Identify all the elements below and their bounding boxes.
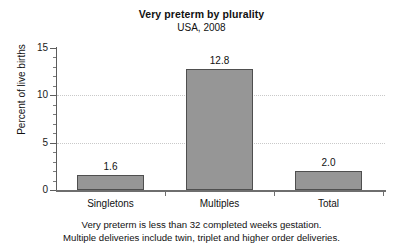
y-minor-tick-mark — [53, 133, 57, 134]
bar-value-label: 1.6 — [81, 161, 141, 172]
y-minor-tick-mark — [53, 114, 57, 115]
y-minor-tick-mark — [53, 57, 57, 58]
chart-subtitle: USA, 2008 — [0, 22, 403, 33]
y-minor-tick-mark — [53, 67, 57, 68]
y-minor-tick-mark — [53, 86, 57, 87]
y-tick-label-wrap: 10 — [0, 90, 48, 100]
y-axis-line — [56, 47, 57, 191]
y-tick-label: 5 — [6, 138, 48, 148]
chart-title: Very preterm by plurality — [0, 8, 403, 20]
bar-value-label: 12.8 — [190, 55, 250, 66]
y-minor-tick-mark — [53, 162, 57, 163]
x-category-label: Total — [284, 198, 374, 209]
y-tick-label-wrap: 5 — [0, 138, 48, 148]
bar — [77, 175, 145, 190]
x-tick-mark — [165, 191, 166, 196]
x-category-label: Multiples — [175, 198, 265, 209]
y-minor-tick-mark — [53, 76, 57, 77]
bar-value-label: 2.0 — [299, 157, 359, 168]
bar — [186, 69, 254, 190]
y-minor-tick-mark — [53, 152, 57, 153]
y-minor-tick-mark — [53, 105, 57, 106]
x-tick-mark — [274, 191, 275, 196]
y-tick-mark — [50, 48, 56, 49]
chart-figure: Very preterm by plurality USA, 2008 Perc… — [0, 0, 403, 250]
x-axis-line — [56, 190, 386, 192]
y-tick-label: 15 — [6, 43, 48, 53]
y-tick-mark — [50, 190, 56, 191]
x-category-label: Singletons — [66, 198, 156, 209]
y-minor-tick-mark — [53, 181, 57, 182]
y-tick-label-wrap: 0 — [0, 185, 48, 195]
footnote-line-1: Very preterm is less than 32 completed w… — [0, 219, 403, 232]
y-minor-tick-mark — [53, 124, 57, 125]
y-tick-label-wrap: 15 — [0, 43, 48, 53]
y-tick-label: 10 — [6, 90, 48, 100]
y-minor-tick-mark — [53, 171, 57, 172]
footnote-line-2: Multiple deliveries include twin, triple… — [0, 232, 403, 245]
x-tick-mark-end — [383, 191, 384, 196]
y-tick-mark — [50, 143, 56, 144]
bar — [295, 171, 363, 190]
y-tick-mark — [50, 95, 56, 96]
y-tick-label: 0 — [6, 185, 48, 195]
